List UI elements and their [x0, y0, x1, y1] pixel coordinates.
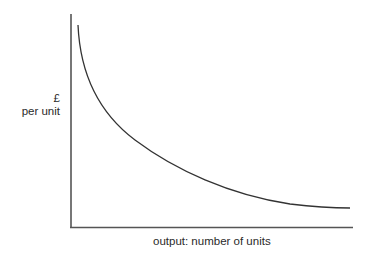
chart-canvas: [0, 0, 370, 256]
cost-curve: [78, 25, 350, 208]
x-axis-label: output: number of units: [153, 235, 271, 247]
y-axis-label-per-unit: per unit: [22, 105, 60, 118]
y-axis-label-currency: £: [54, 92, 60, 105]
